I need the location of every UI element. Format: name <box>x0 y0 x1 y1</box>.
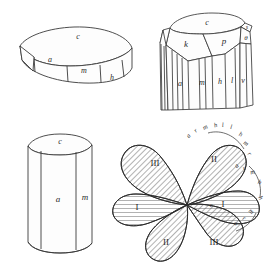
figure-terminated-prism-crystal <box>160 13 253 110</box>
face-label-v: v <box>241 76 245 85</box>
sector-numeral-lower-left: II <box>163 237 169 247</box>
face-label-theta: θ <box>244 34 248 42</box>
rosette-center-label-c: c <box>210 202 213 208</box>
face-label-h: h <box>218 77 222 86</box>
face-label-c: c <box>58 137 62 146</box>
face-label-h: h <box>110 73 114 82</box>
face-label-a: a <box>56 194 61 204</box>
face-label-m: m <box>82 192 89 202</box>
sector-numeral-left: I <box>136 202 139 212</box>
face-label-c: c <box>205 18 209 27</box>
face-label-p: p <box>221 36 227 46</box>
face-label-m: m <box>81 66 87 75</box>
sector-numeral-upper-right: II <box>211 154 217 164</box>
sector-numeral-lower-right: III <box>210 237 219 247</box>
crystal-figure-plate: c a m h <box>0 0 270 273</box>
face-label-m: m <box>199 78 205 87</box>
plate-canvas: c a m h <box>0 0 270 273</box>
face-label-a: a <box>178 79 182 88</box>
sector-numeral-upper-left: III <box>151 158 160 168</box>
face-label-a: a <box>48 55 52 64</box>
sector-numeral-right: I <box>222 199 225 209</box>
face-label-c: c <box>76 32 80 41</box>
